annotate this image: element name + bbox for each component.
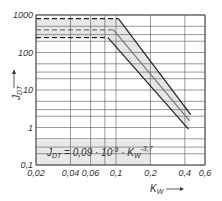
svg-text:JDT: JDT [11,85,23,101]
y-tick-label: 1000 [13,10,33,20]
x-tick-label: 0,4 [179,168,192,178]
x-tick-label: 0,1 [110,168,123,178]
x-axis-label: KW [150,183,165,195]
y-tick-label: 0,1 [20,160,33,170]
x-axis-arrowhead [180,187,184,191]
series-line-1 [113,30,189,121]
series-line-2 [108,38,189,130]
x-tick-label: 0,6 [199,168,212,178]
series-line-0 [118,19,190,115]
y-axis-label: JDT [11,85,23,101]
x-tick-label: 0,04 [62,168,80,178]
y-tick-label: 1 [28,123,33,133]
chart: 0,020,040,060,10,20,40,60,11101001000KWJ… [0,0,222,201]
x-tick-label: 0,06 [82,168,100,178]
scatter-band [36,19,191,130]
x-tick-label: 0,2 [144,168,157,178]
y-tick-label: 100 [18,48,33,58]
y-axis-arrowhead [12,69,16,74]
y-tick-label: 10 [23,85,33,95]
